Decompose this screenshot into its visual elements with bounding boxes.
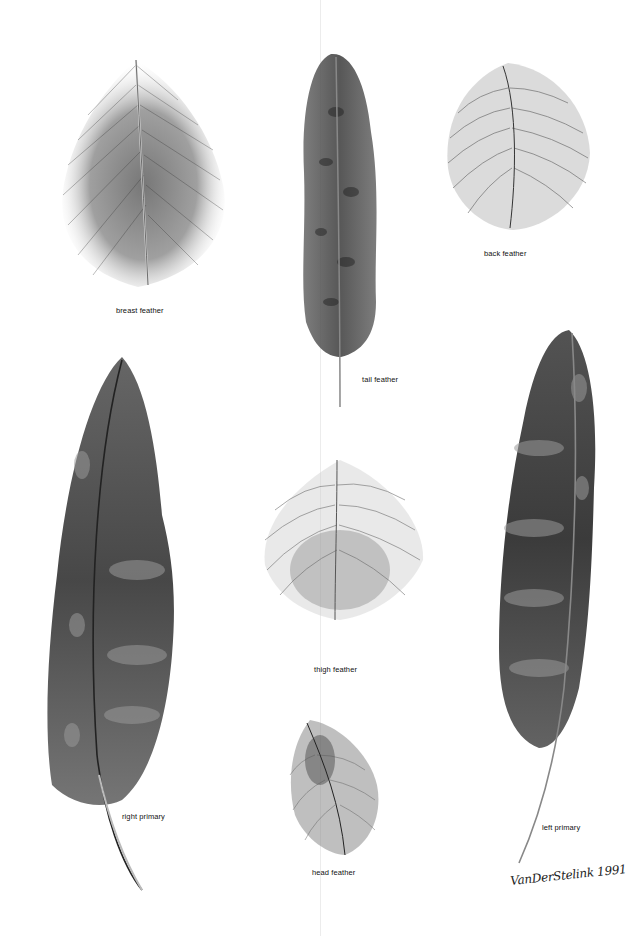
breast-feather-label: breast feather — [116, 306, 164, 315]
left-primary-label: left primary — [542, 823, 580, 832]
left-primary-feather-illustration — [494, 328, 604, 868]
head-feather-illustration — [285, 715, 385, 860]
tail-feather-illustration — [296, 52, 386, 412]
back-feather-illustration — [438, 58, 598, 238]
tail-feather-label: tail feather — [362, 375, 398, 384]
right-primary-label: right primary — [122, 812, 165, 821]
breast-feather-illustration — [48, 55, 238, 295]
thigh-feather-illustration — [255, 455, 430, 625]
head-feather-label: head feather — [312, 868, 355, 877]
thigh-feather-label: thigh feather — [314, 665, 357, 674]
back-feather-label: back feather — [484, 249, 526, 258]
